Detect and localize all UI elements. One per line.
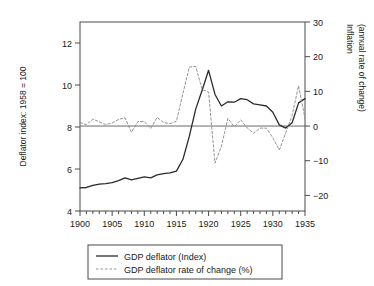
series-line-1 [80,70,305,188]
y-axis-tick-label: 6 [67,165,72,175]
legend-label-2: GDP deflator rate of change (%) [124,265,252,275]
y2-axis-title-line2: (annual rate of change) [357,24,367,112]
chart-figure: 190019051910191519201925193019354681012−… [0,0,374,286]
x-axis-tick-label: 1930 [263,219,283,229]
y-axis-title: Deflator index: 1958 = 100 [18,66,28,166]
x-axis-tick-label: 1935 [295,219,315,229]
y-axis-tick-label: 4 [67,207,72,217]
y2-axis-title-line1: Inflation [345,24,355,54]
x-axis-tick-label: 1900 [70,219,90,229]
y-axis-tick-label: 8 [67,123,72,133]
y2-axis-tick-label: −20 [313,191,328,201]
x-axis-tick-label: 1925 [231,219,251,229]
gdp-deflator-chart: 190019051910191519201925193019354681012−… [0,0,374,286]
y2-axis-tick-label: −10 [313,156,328,166]
y2-axis-tick-label: 10 [313,87,323,97]
y2-axis-tick-label: 20 [313,52,323,62]
x-axis-tick-label: 1910 [134,219,154,229]
x-axis-tick-label: 1905 [102,219,122,229]
y2-axis-tick-label: 0 [313,122,318,132]
y-axis-tick-label: 10 [62,81,72,91]
series-line-2 [80,66,305,163]
legend-label-1: GDP deflator (Index) [124,252,206,262]
y-axis-tick-label: 12 [62,39,72,49]
x-axis-tick-label: 1920 [199,219,219,229]
x-axis-tick-label: 1915 [166,219,186,229]
y2-axis-tick-label: 30 [313,18,323,28]
